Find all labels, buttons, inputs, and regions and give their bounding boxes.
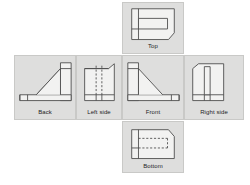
view-label-right-side: Right side bbox=[185, 109, 243, 116]
view-panel-left-side: Left side bbox=[76, 55, 122, 120]
view-label-left-side: Left side bbox=[77, 109, 121, 116]
orthographic-projection-figure: Top Back bbox=[0, 0, 250, 185]
view-panel-back: Back bbox=[14, 55, 76, 120]
view-panel-front: Front bbox=[122, 55, 184, 120]
view-label-bottom: Bottom bbox=[123, 163, 183, 170]
view-label-front: Front bbox=[123, 109, 183, 116]
view-panel-right-side: Right side bbox=[184, 55, 244, 120]
view-label-back: Back bbox=[15, 109, 75, 116]
view-label-top: Top bbox=[123, 43, 183, 50]
view-panel-bottom: Bottom bbox=[122, 121, 184, 173]
view-panel-top: Top bbox=[122, 2, 184, 54]
